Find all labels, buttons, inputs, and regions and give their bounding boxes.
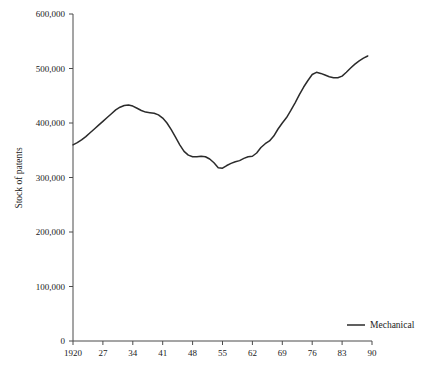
series-line-mechanical bbox=[73, 56, 368, 168]
x-axis-tick-label: 41 bbox=[158, 348, 167, 358]
legend-entry-label: Mechanical bbox=[370, 320, 415, 330]
x-axis-tick-label: 1920 bbox=[64, 348, 83, 358]
x-axis-tick-label: 27 bbox=[98, 348, 108, 358]
chart-container: 0100,000200,000300,000400,000500,000600,… bbox=[0, 0, 438, 375]
y-axis-tick-label: 0 bbox=[61, 336, 66, 346]
x-axis-tick-label: 62 bbox=[248, 348, 257, 358]
x-axis-tick-label: 69 bbox=[278, 348, 288, 358]
y-axis: 0100,000200,000300,000400,000500,000600,… bbox=[36, 9, 73, 346]
x-axis-tick-label: 55 bbox=[218, 348, 228, 358]
y-axis-tick-label: 500,000 bbox=[36, 64, 66, 74]
x-axis-tick-label: 83 bbox=[338, 348, 348, 358]
y-axis-tick-label: 400,000 bbox=[36, 118, 66, 128]
y-axis-tick-label: 300,000 bbox=[36, 173, 66, 183]
x-axis-tick-label: 48 bbox=[188, 348, 198, 358]
x-axis: 192027344148556269768390 bbox=[64, 341, 377, 358]
x-axis-tick-label: 34 bbox=[128, 348, 138, 358]
y-axis-tick-label: 600,000 bbox=[36, 9, 66, 19]
chart-legend: Mechanical bbox=[347, 320, 415, 330]
line-chart: 0100,000200,000300,000400,000500,000600,… bbox=[0, 0, 438, 375]
y-axis-tick-label: 100,000 bbox=[36, 282, 66, 292]
x-axis-tick-label: 90 bbox=[368, 348, 378, 358]
y-axis-title: Stock of patents bbox=[14, 147, 24, 209]
series-group bbox=[73, 56, 368, 168]
y-axis-tick-label: 200,000 bbox=[36, 227, 66, 237]
x-axis-tick-label: 76 bbox=[308, 348, 318, 358]
